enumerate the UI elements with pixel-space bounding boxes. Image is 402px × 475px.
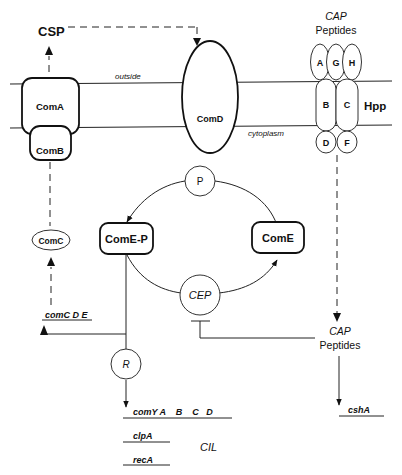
comD-node: ComD <box>182 41 238 153</box>
cep-label: CEP <box>189 289 212 301</box>
phospho-node: P <box>185 166 215 196</box>
r-node: R <box>111 349 141 379</box>
hpp-F: F <box>344 138 350 148</box>
cil-gene-cluster: comY A B C D clpA recA CIL <box>123 407 232 465</box>
gene-cshA: cshA <box>348 405 370 415</box>
hpp-label: Hpp <box>364 100 386 112</box>
hpp-B: B <box>323 100 330 110</box>
gene-clpA: clpA <box>133 431 153 441</box>
p-label: P <box>197 176 204 187</box>
csp-label: CSP <box>38 24 65 39</box>
comC-node: ComC <box>32 230 70 250</box>
comB-label: ComB <box>36 145 64 156</box>
comE-P-output <box>40 255 126 407</box>
hpp-A: A <box>317 58 324 68</box>
csp-dashed-path <box>45 27 201 72</box>
comE-label: ComE <box>262 232 294 244</box>
r-label: R <box>122 359 129 370</box>
hpp-C: C <box>344 100 351 110</box>
cap-mid-line1: CAP <box>329 325 351 337</box>
comE-P-node: ComE-P <box>100 223 153 254</box>
comE-node: ComE <box>252 222 304 253</box>
comA-label: ComA <box>36 101 64 112</box>
hpp-complex: A G H B C D F <box>311 44 362 153</box>
gene-comCDE: comC D E <box>45 310 89 320</box>
cap-mid-line2: Peptides <box>320 339 361 351</box>
hpp-G: G <box>332 58 339 68</box>
gene-recA: recA <box>133 455 153 465</box>
comD-label: ComD <box>197 114 224 124</box>
gene-comY: comY A B C D <box>133 407 213 417</box>
hpp-D: D <box>323 138 330 148</box>
com-signaling-diagram: outside cytoplasm CSP ComA ComB ComC com… <box>0 0 402 475</box>
cil-label: CIL <box>200 441 217 453</box>
cap-top-line2: Peptides <box>316 24 357 36</box>
cap-top-line1: CAP <box>325 10 347 22</box>
comE-P-label: ComE-P <box>105 233 148 245</box>
cep-node: CEP <box>180 275 220 315</box>
comB-node: ComB <box>30 126 71 160</box>
outside-label: outside <box>115 72 141 81</box>
cytoplasm-label: cytoplasm <box>248 129 284 138</box>
cap-inhibits-cep <box>191 321 315 338</box>
hpp-H: H <box>349 58 356 68</box>
comC-label: ComC <box>38 236 63 246</box>
